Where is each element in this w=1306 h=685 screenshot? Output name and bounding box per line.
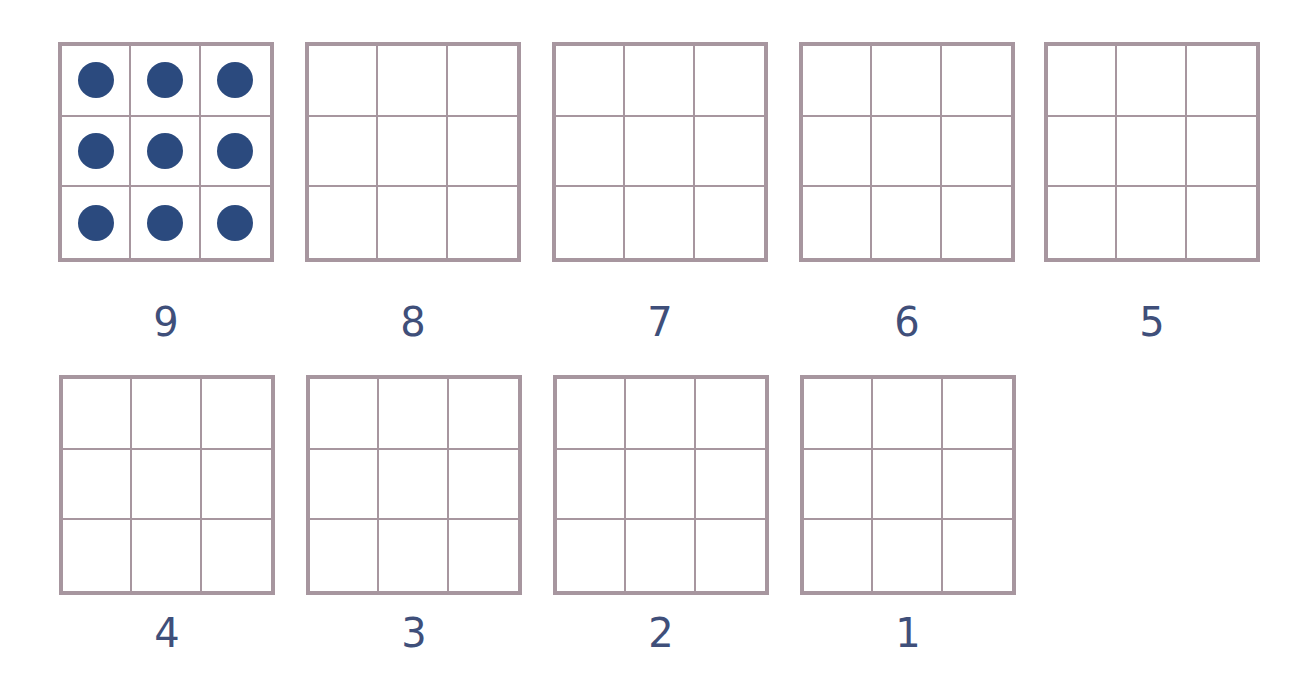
grid-cell[interactable] [449, 450, 518, 521]
grid-cell[interactable] [201, 46, 270, 117]
grid-cell[interactable] [803, 117, 872, 188]
grid-cell[interactable] [804, 450, 873, 521]
counter-dot-icon [147, 62, 183, 98]
grid-3x3 [58, 42, 274, 262]
nine-frame-2 [553, 375, 769, 595]
grid-cell[interactable] [1117, 187, 1186, 258]
grid-cell[interactable] [310, 450, 379, 521]
grid-cell[interactable] [449, 379, 518, 450]
grid-3x3 [799, 42, 1015, 262]
grid-cell[interactable] [873, 379, 942, 450]
grid-cell[interactable] [202, 450, 271, 521]
grid-cell[interactable] [379, 520, 448, 591]
grid-cell[interactable] [63, 379, 132, 450]
grid-cell[interactable] [625, 187, 694, 258]
grid-cell[interactable] [1048, 117, 1117, 188]
grid-cell[interactable] [942, 46, 1011, 117]
grid-cell[interactable] [132, 379, 201, 450]
grid-cell[interactable] [448, 187, 517, 258]
grid-cell[interactable] [1048, 187, 1117, 258]
grid-cell[interactable] [696, 450, 765, 521]
grid-cell[interactable] [131, 187, 200, 258]
grid-3x3 [552, 42, 768, 262]
frame-number-label: 1 [800, 613, 1016, 653]
grid-cell[interactable] [556, 46, 625, 117]
nine-frame-8 [305, 42, 521, 262]
nine-frame-4 [59, 375, 275, 595]
grid-cell[interactable] [63, 450, 132, 521]
counter-dot-icon [78, 205, 114, 241]
grid-cell[interactable] [626, 450, 695, 521]
grid-cell[interactable] [201, 187, 270, 258]
grid-cell[interactable] [310, 520, 379, 591]
nine-frame-9 [58, 42, 274, 262]
grid-cell[interactable] [62, 187, 131, 258]
frame-number-label: 8 [305, 302, 521, 342]
grid-cell[interactable] [872, 117, 941, 188]
grid-cell[interactable] [449, 520, 518, 591]
grid-cell[interactable] [804, 379, 873, 450]
grid-cell[interactable] [804, 520, 873, 591]
grid-cell[interactable] [943, 379, 1012, 450]
grid-cell[interactable] [803, 46, 872, 117]
grid-cell[interactable] [202, 379, 271, 450]
grid-cell[interactable] [309, 46, 378, 117]
grid-cell[interactable] [943, 450, 1012, 521]
grid-cell[interactable] [696, 379, 765, 450]
grid-cell[interactable] [626, 520, 695, 591]
grid-cell[interactable] [1187, 46, 1256, 117]
grid-cell[interactable] [557, 379, 626, 450]
grid-cell[interactable] [943, 520, 1012, 591]
grid-cell[interactable] [557, 450, 626, 521]
grid-cell[interactable] [1048, 46, 1117, 117]
grid-cell[interactable] [696, 520, 765, 591]
grid-cell[interactable] [557, 520, 626, 591]
grid-cell[interactable] [803, 187, 872, 258]
grid-cell[interactable] [873, 520, 942, 591]
grid-cell[interactable] [1187, 117, 1256, 188]
grid-cell[interactable] [379, 379, 448, 450]
grid-cell[interactable] [310, 379, 379, 450]
grid-cell[interactable] [942, 187, 1011, 258]
grid-cell[interactable] [872, 187, 941, 258]
grid-cell[interactable] [309, 187, 378, 258]
grid-cell[interactable] [1117, 46, 1186, 117]
grid-cell[interactable] [942, 117, 1011, 188]
grid-cell[interactable] [379, 450, 448, 521]
grid-cell[interactable] [625, 117, 694, 188]
grid-cell[interactable] [695, 46, 764, 117]
grid-cell[interactable] [309, 117, 378, 188]
grid-cell[interactable] [201, 117, 270, 188]
grid-cell[interactable] [872, 46, 941, 117]
grid-cell[interactable] [873, 450, 942, 521]
grid-cell[interactable] [378, 46, 447, 117]
counter-dot-icon [147, 133, 183, 169]
grid-cell[interactable] [695, 117, 764, 188]
grid-cell[interactable] [132, 450, 201, 521]
grid-cell[interactable] [1187, 187, 1256, 258]
grid-cell[interactable] [62, 117, 131, 188]
frame-number-label: 4 [59, 613, 275, 653]
grid-cell[interactable] [556, 117, 625, 188]
grid-cell[interactable] [1117, 117, 1186, 188]
grid-cell[interactable] [378, 187, 447, 258]
grid-cell[interactable] [63, 520, 132, 591]
grid-cell[interactable] [131, 117, 200, 188]
grid-cell[interactable] [62, 46, 131, 117]
grid-cell[interactable] [556, 187, 625, 258]
grid-cell[interactable] [448, 46, 517, 117]
counter-dot-icon [147, 205, 183, 241]
grid-3x3 [800, 375, 1016, 595]
grid-cell[interactable] [695, 187, 764, 258]
grid-3x3 [305, 42, 521, 262]
grid-cell[interactable] [378, 117, 447, 188]
grid-cell[interactable] [448, 117, 517, 188]
grid-3x3 [306, 375, 522, 595]
grid-3x3 [1044, 42, 1260, 262]
grid-cell[interactable] [132, 520, 201, 591]
grid-cell[interactable] [202, 520, 271, 591]
grid-cell[interactable] [625, 46, 694, 117]
counter-dot-icon [78, 62, 114, 98]
grid-cell[interactable] [131, 46, 200, 117]
grid-cell[interactable] [626, 379, 695, 450]
